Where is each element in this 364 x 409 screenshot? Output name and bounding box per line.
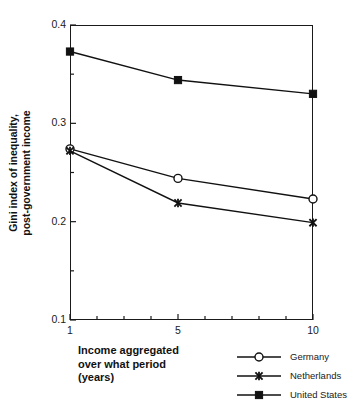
legend-key-cross-icon [236, 369, 282, 383]
legend-label: United States [282, 389, 347, 400]
x-axis-title-line-1: Income aggregated [78, 344, 218, 358]
chart-legend: GermanyNetherlandsUnited States [236, 347, 364, 404]
legend-label: Germany [282, 351, 329, 362]
legend-item-netherlands: Netherlands [236, 366, 364, 385]
x-axis-title: Income aggregated over what period (year… [78, 344, 218, 385]
legend-item-united-states: United States [236, 385, 364, 404]
x-axis-title-line-2: over what period [78, 358, 218, 372]
legend-key-open-circle-icon [236, 350, 282, 364]
legend-key-filled-square-icon [236, 388, 282, 402]
chart-page: Gini index of inequality, post-governmen… [0, 0, 364, 409]
x-axis-title-line-3: (years) [78, 371, 218, 385]
legend-label: Netherlands [282, 370, 341, 381]
legend-item-germany: Germany [236, 347, 364, 366]
